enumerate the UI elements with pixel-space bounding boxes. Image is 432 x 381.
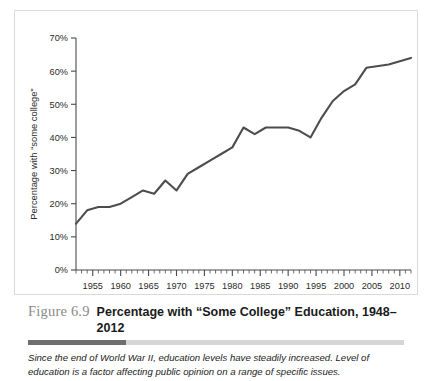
- x-tick-label: 1985: [250, 281, 270, 291]
- x-tick-label: 1960: [110, 281, 130, 291]
- y-tick-label: 30%: [50, 166, 68, 176]
- y-tick-label: 20%: [50, 199, 68, 209]
- x-tick-label: 1970: [166, 281, 186, 291]
- caption-note-text: Since the end of World War II, education…: [28, 351, 404, 379]
- x-tick-label: 1995: [306, 281, 326, 291]
- y-axis-title: Percentage with “some college”: [28, 88, 39, 219]
- y-tick-label: 60%: [50, 67, 68, 77]
- figure-container: 0%10%20%30%40%50%60%70%19551960196519701…: [0, 0, 432, 381]
- x-tick-label: 1955: [83, 281, 103, 291]
- x-tick-label: 1965: [138, 281, 158, 291]
- caption-divider-rule: [28, 340, 404, 345]
- figure-title: Percentage with “Some College” Education…: [97, 304, 404, 336]
- y-tick-label: 10%: [50, 232, 68, 242]
- caption-heading-row: Figure 6.9 Percentage with “Some College…: [14, 299, 418, 336]
- y-tick-label: 50%: [50, 100, 68, 110]
- x-tick-label: 1990: [278, 281, 298, 291]
- y-tick-label: 70%: [50, 33, 68, 43]
- chart-panel: 0%10%20%30%40%50%60%70%19551960196519701…: [14, 10, 418, 295]
- figure-number-label: Figure 6.9: [28, 303, 90, 320]
- figure-caption: Figure 6.9 Percentage with “Some College…: [14, 299, 418, 381]
- x-tick-label: 2005: [362, 281, 382, 291]
- line-chart: 0%10%20%30%40%50%60%70%19551960196519701…: [15, 11, 417, 294]
- caption-divider-accent: [28, 340, 126, 345]
- x-tick-label: 2000: [334, 281, 354, 291]
- x-tick-label: 1975: [194, 281, 214, 291]
- y-tick-label: 40%: [50, 133, 68, 143]
- x-tick-label: 1980: [222, 281, 242, 291]
- data-series-line: [76, 58, 411, 224]
- y-tick-label: 0%: [55, 265, 68, 275]
- x-tick-label: 2010: [390, 281, 410, 291]
